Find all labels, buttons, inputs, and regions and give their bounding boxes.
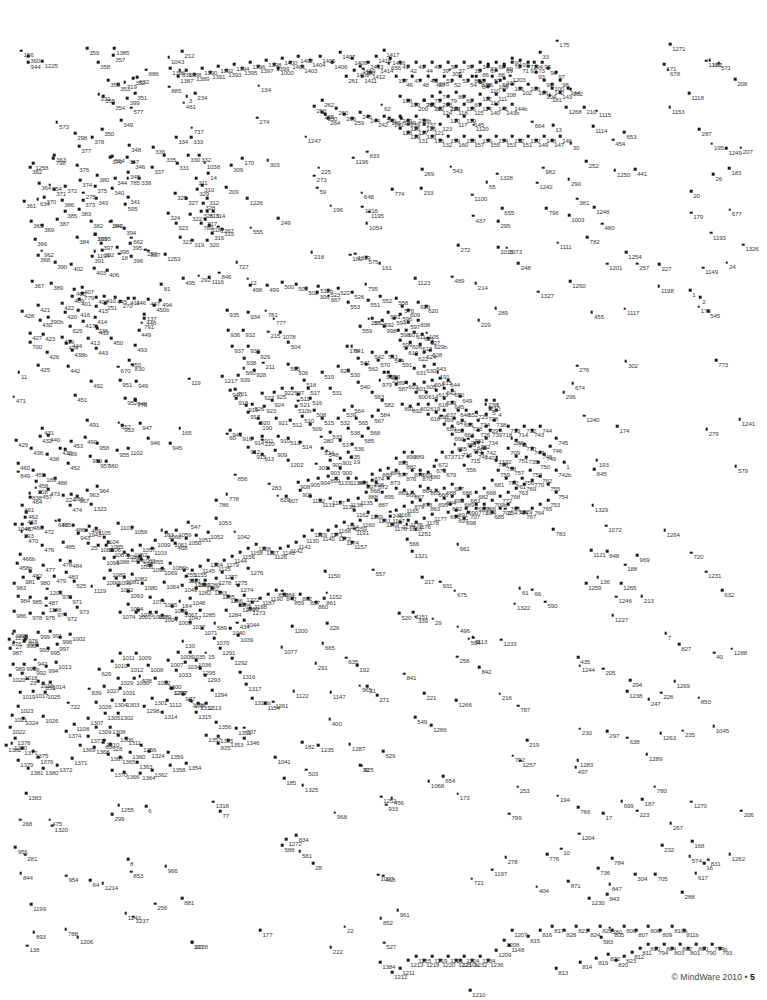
puzzle-dot — [45, 597, 48, 600]
puzzle-dot — [190, 136, 193, 139]
puzzle-dot-label: 1229 — [519, 509, 532, 515]
puzzle-dot — [200, 210, 203, 213]
puzzle-dot — [182, 277, 185, 280]
puzzle-dot — [130, 255, 133, 258]
puzzle-dot-label: 1372 — [59, 767, 72, 773]
puzzle-dot-label: 1354 — [188, 765, 201, 771]
puzzle-dot — [266, 159, 269, 162]
puzzle-dot — [199, 565, 202, 568]
puzzle-dot — [182, 101, 185, 104]
puzzle-dot-label: 33 — [542, 54, 549, 60]
puzzle-dot — [324, 113, 327, 116]
puzzle-dot — [258, 84, 261, 87]
puzzle-dot-label: 220 — [265, 441, 275, 447]
puzzle-dot — [328, 718, 331, 721]
puzzle-dot — [593, 468, 596, 471]
puzzle-dot — [607, 953, 610, 956]
puzzle-dot — [104, 712, 107, 715]
puzzle-dot — [636, 262, 639, 265]
puzzle-dot — [313, 409, 316, 412]
puzzle-dot — [201, 67, 204, 70]
puzzle-dot — [50, 282, 53, 285]
puzzle-dot — [187, 521, 190, 524]
puzzle-dot-label: 261 — [348, 78, 358, 84]
puzzle-dot — [14, 846, 17, 849]
puzzle-dot — [90, 220, 93, 223]
dot-to-dot-canvas — [0, 0, 767, 1000]
puzzle-dot — [443, 75, 446, 78]
puzzle-dot-label: 163 — [164, 532, 174, 538]
puzzle-dot-label: 787 — [520, 707, 530, 713]
puzzle-dot — [659, 732, 662, 735]
puzzle-dot-label: 186 — [391, 120, 401, 126]
puzzle-dot-label: 564 — [354, 408, 364, 414]
puzzle-dot — [690, 800, 693, 803]
puzzle-dot — [503, 139, 506, 142]
puzzle-dot — [212, 210, 215, 213]
puzzle-dot — [691, 840, 694, 843]
puzzle-dot-label: 288 — [685, 894, 695, 900]
puzzle-dot — [145, 805, 148, 808]
puzzle-dot — [467, 638, 470, 641]
puzzle-dot — [65, 875, 68, 878]
puzzle-dot-label: 942 — [37, 661, 47, 667]
puzzle-dot — [37, 364, 40, 367]
puzzle-dot — [391, 355, 394, 358]
puzzle-dot-label: 1012 — [130, 667, 143, 673]
puzzle-dot-label: 282 — [573, 91, 583, 97]
puzzle-dot — [537, 290, 540, 293]
puzzle-dot-label: 1079 — [158, 614, 171, 620]
puzzle-dot — [195, 711, 198, 714]
puzzle-dot-label: 225 — [321, 169, 331, 175]
puzzle-dot — [475, 75, 478, 78]
puzzle-dot-label: 501 — [298, 286, 308, 292]
puzzle-dot — [339, 51, 342, 54]
puzzle-dot — [151, 769, 154, 772]
puzzle-dot-label: 809 — [662, 932, 672, 938]
puzzle-dot — [264, 702, 267, 705]
puzzle-dot — [37, 254, 40, 257]
puzzle-dot — [681, 729, 684, 732]
puzzle-dot — [346, 345, 349, 348]
puzzle-dot — [195, 534, 198, 537]
puzzle-dot — [103, 536, 106, 539]
puzzle-dot-label: 852 — [383, 920, 393, 926]
puzzle-dot — [169, 764, 172, 767]
puzzle-dot-label: 1082 — [134, 576, 147, 582]
puzzle-dot — [728, 167, 731, 170]
puzzle-dot-label: 1287 — [352, 746, 365, 752]
puzzle-dot — [511, 103, 514, 106]
puzzle-dot — [646, 753, 649, 756]
puzzle-dot-label: 968 — [337, 814, 347, 820]
puzzle-dot — [431, 379, 434, 382]
puzzle-dot-label: 1238 — [629, 693, 642, 699]
puzzle-dot — [279, 331, 282, 334]
puzzle-dot — [277, 435, 280, 438]
puzzle-dot — [485, 399, 488, 402]
puzzle-dot-label: 2 — [702, 299, 705, 305]
puzzle-dot — [409, 341, 412, 344]
puzzle-dot — [319, 499, 322, 502]
puzzle-dot-label: 421 — [40, 307, 50, 313]
puzzle-dot — [411, 451, 414, 454]
puzzle-dot — [382, 750, 385, 753]
puzzle-dot-label: 28 — [315, 865, 322, 871]
puzzle-dot-label: 1246 — [619, 598, 632, 604]
puzzle-dot-label: 928 — [256, 372, 266, 378]
puzzle-dot — [371, 351, 374, 354]
puzzle-dot — [120, 119, 123, 122]
puzzle-dot — [463, 955, 466, 958]
puzzle-dot — [37, 304, 40, 307]
puzzle-dot — [119, 300, 122, 303]
puzzle-dot-label: 1376 — [40, 759, 53, 765]
puzzle-dot-label: 187 — [645, 801, 655, 807]
puzzle-dot — [85, 529, 88, 532]
puzzle-dot — [273, 391, 276, 394]
puzzle-dot — [393, 317, 396, 320]
puzzle-dot — [177, 651, 180, 654]
puzzle-dot-label: 67 — [490, 68, 497, 74]
puzzle-dot — [130, 870, 133, 873]
puzzle-dot-label: 1257 — [523, 762, 536, 768]
puzzle-dot-label: 420 — [67, 314, 77, 320]
puzzle-dot-label: 287 — [702, 131, 712, 137]
